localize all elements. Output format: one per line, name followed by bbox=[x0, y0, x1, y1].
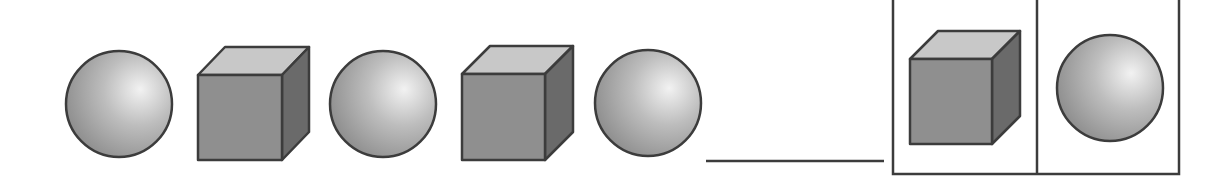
option-cube-icon[interactable] bbox=[910, 31, 1020, 144]
cube-icon bbox=[462, 46, 573, 160]
sphere-icon bbox=[595, 50, 701, 156]
pattern-puzzle bbox=[0, 0, 1227, 181]
shape-sequence bbox=[66, 46, 701, 160]
sphere-icon bbox=[330, 51, 436, 157]
option-sphere-icon[interactable] bbox=[1057, 35, 1163, 141]
cube-front-face bbox=[462, 74, 545, 160]
sphere-icon bbox=[66, 51, 172, 157]
cube-front-face bbox=[198, 75, 282, 160]
cube-icon bbox=[198, 47, 309, 160]
cube-front-face bbox=[910, 59, 992, 144]
answer-options bbox=[893, 0, 1179, 174]
